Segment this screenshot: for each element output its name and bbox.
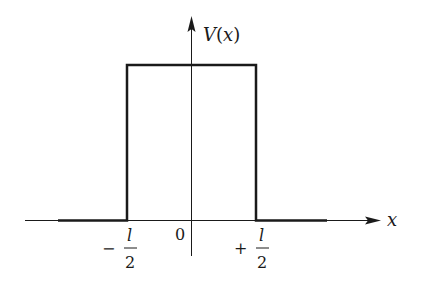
- origin-label: 0: [175, 225, 185, 244]
- right-edge-denominator: 2: [257, 253, 267, 272]
- y-axis-label: V(x): [203, 24, 240, 45]
- x-axis-label: x: [387, 209, 397, 230]
- right-edge-sign: +: [234, 239, 247, 258]
- potential-curve: [58, 65, 327, 221]
- left-edge-numerator: l: [127, 226, 132, 245]
- right-edge-numerator: l: [259, 226, 264, 245]
- potential-diagram: V(x) x 0 − l 2 + l 2: [0, 0, 421, 294]
- left-edge-sign: −: [102, 239, 115, 258]
- left-edge-denominator: 2: [125, 253, 135, 272]
